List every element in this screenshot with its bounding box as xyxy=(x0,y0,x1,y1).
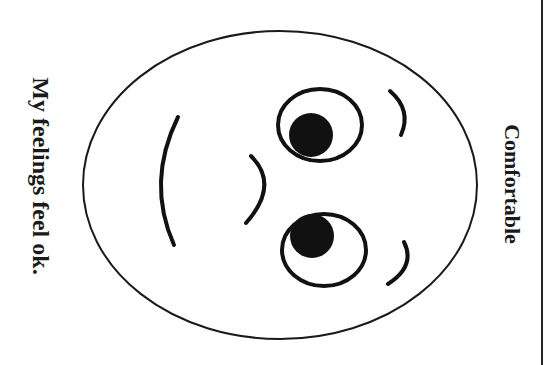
card-border-right xyxy=(541,0,543,365)
face-outline xyxy=(83,31,477,339)
eyebrow-bottom xyxy=(388,242,408,284)
eye-top xyxy=(278,89,362,161)
feelings-card: Comfortable My feelings feel ok. xyxy=(0,0,552,365)
mouth xyxy=(161,117,178,245)
eye-top-pupil xyxy=(289,113,333,157)
feeling-title: Comfortable xyxy=(499,124,525,244)
eye-bottom xyxy=(282,214,366,286)
eyebrow-top xyxy=(390,91,405,135)
eye-bottom-pupil xyxy=(290,214,334,258)
nose xyxy=(246,156,264,223)
feeling-caption: My feelings feel ok. xyxy=(27,77,54,274)
face-drawing xyxy=(0,0,552,365)
